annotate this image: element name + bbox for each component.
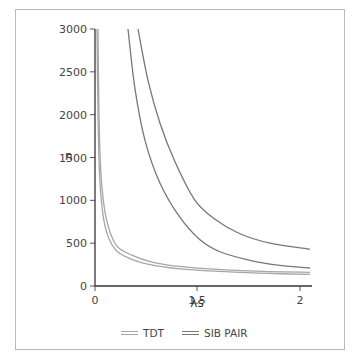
sib-pair-swatch-icon xyxy=(182,331,199,335)
x-tick-label: 0 xyxy=(92,294,99,307)
y-tick-label: 0 xyxy=(80,280,87,293)
y-tick-label: 1000 xyxy=(59,194,87,207)
tdt-curve xyxy=(97,29,310,274)
x-axis-label: λs xyxy=(190,296,203,310)
y-tick-label: 500 xyxy=(66,237,87,250)
plot-curves xyxy=(97,29,310,274)
y-tick-label: 1500 xyxy=(59,152,87,165)
x-tick-label: 2 xyxy=(297,294,304,307)
line-chart: 050010001500200025003000 01.52 n λs xyxy=(0,0,360,361)
legend-item-tdt: TDT xyxy=(121,327,164,339)
y-axis-label: n xyxy=(65,149,73,163)
legend-item-sib-pair: SIB PAIR xyxy=(182,327,248,339)
legend-label-sib-pair: SIB PAIR xyxy=(204,327,248,339)
sib-pair-curve xyxy=(138,29,310,249)
legend-label-tdt: TDT xyxy=(143,327,164,339)
y-tick-label: 2500 xyxy=(59,66,87,79)
tdt-curve xyxy=(98,29,310,272)
y-tick-label: 3000 xyxy=(59,23,87,36)
tdt-swatch-icon xyxy=(121,331,138,335)
y-tick-label: 2000 xyxy=(59,109,87,122)
sib-pair-curve xyxy=(128,29,310,268)
